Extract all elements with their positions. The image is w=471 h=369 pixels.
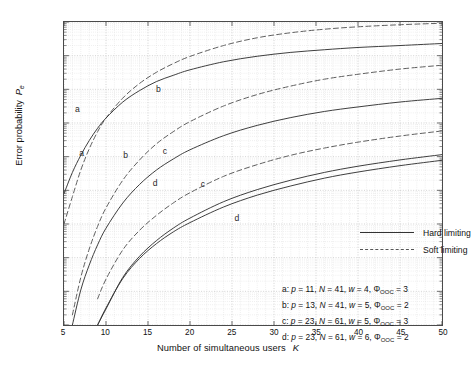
x-tick-7: 40 [344,329,374,337]
curve-label-b-3: b [123,151,128,160]
x-tick-4: 25 [217,329,247,337]
x-tick-8: 45 [386,329,416,337]
legend-label-0: Hard limiting [423,228,471,238]
curve-a-hard [64,43,442,193]
curve-label-a-1: a [79,149,84,158]
x-axis-symbol: K [286,343,299,353]
x-tick-6: 35 [301,329,331,337]
x-tick-2: 15 [132,329,162,337]
y-axis-symbol-subscript: e [18,85,25,89]
chart-legend: Hard limitingSoft limiting [360,224,471,258]
y-axis-title: Error probabilityPe [14,21,25,231]
curve-label-c-5: c [201,180,205,189]
annotation-row-b: b: p = 13, N = 41, w = 5, ΦOOC = 2 [282,297,409,313]
x-tick-3: 20 [175,329,205,337]
x-tick-9: 50 [428,329,458,337]
curve-label-d-6: d [153,179,158,188]
x-tick-0: 5 [48,329,78,337]
curve-label-c-4: c [163,147,167,156]
y-axis-title-text: Error probability [14,100,24,166]
annotation-row-c: c: p = 23, N = 61, w = 5, ΦOOC = 3 [282,313,409,329]
x-axis-title-text: Number of simultaneous users [157,343,286,353]
x-tick-5: 30 [259,329,289,337]
x-tick-1: 10 [90,329,120,337]
curve-lines [64,22,442,325]
curve-label-a-0: a [75,105,80,114]
curve-label-b-2: b [156,85,161,94]
annotation-row-a: a: p = 11, N = 41, w = 4, ΦOOC = 3 [282,281,409,297]
legend-item-solid: Hard limiting [360,224,471,241]
legend-label-1: Soft limiting [423,245,467,255]
legend-key-dashed-icon [360,249,414,251]
plot-area: aabbccdd Hard limitingSoft limiting a: p… [63,21,443,326]
x-axis-title: Number of simultaneous usersK [0,343,456,353]
legend-key-solid-icon [360,232,414,234]
curve-c-soft [98,131,442,299]
legend-item-dashed: Soft limiting [360,241,471,258]
curve-label-d-7: d [235,214,240,223]
curve-a-soft [64,23,442,224]
y-axis-symbol: Pe [14,85,24,100]
